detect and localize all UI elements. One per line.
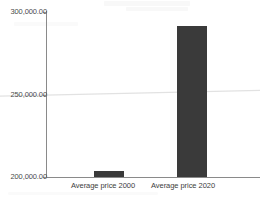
scan-artifact (126, 7, 188, 11)
scan-artifact (8, 192, 158, 195)
x-axis-category-label-1: Average price 2020 (151, 181, 215, 190)
y-axis-label-mid: 250,000.00 (1, 90, 47, 99)
x-axis-line (46, 177, 260, 178)
scan-artifact (104, 1, 190, 6)
y-axis-label-bottom: 200,000.00 (1, 172, 47, 181)
bar-chart: 300,000.00 250,000.00 200,000.00 Average… (0, 0, 260, 200)
bar-average-price-2020[interactable] (177, 26, 207, 177)
x-axis-category-label-0: Average price 2000 (71, 181, 135, 190)
bar-average-price-2000[interactable] (94, 171, 124, 177)
y-axis-label-top: 300,000.00 (1, 7, 47, 16)
bars-layer (47, 12, 260, 177)
